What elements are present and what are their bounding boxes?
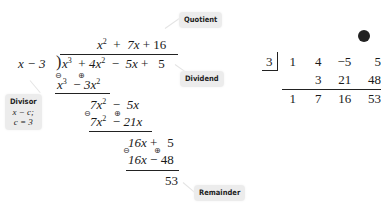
- term: 7x: [90, 97, 102, 112]
- quotient-term-2: 7x: [127, 37, 139, 52]
- coefficient: 5: [351, 53, 381, 71]
- result: 1: [282, 90, 296, 109]
- dividend-term-2: 4x: [89, 56, 101, 71]
- exponent: 2: [96, 77, 100, 86]
- quotient: x2 + 7x + 16: [97, 38, 166, 52]
- decorative-dot: [358, 30, 370, 42]
- quotient-label: Quotient: [179, 12, 222, 28]
- term: 3x: [84, 77, 96, 92]
- term: 48: [161, 152, 174, 167]
- divisor-label: Divisor x − c; c = 3: [5, 94, 42, 130]
- term: 5x: [127, 97, 139, 112]
- operator: +: [141, 56, 148, 71]
- coefficient: 1: [282, 53, 296, 71]
- term: 16x: [128, 152, 147, 167]
- operator: +: [143, 37, 150, 52]
- product: 48: [351, 71, 381, 90]
- dividend-label: Dividend: [180, 71, 224, 87]
- divisor-label-c: c = 3: [10, 117, 37, 127]
- division-bracket: ): [56, 55, 61, 69]
- term: 7x: [90, 114, 102, 129]
- products-row: 3 21 48: [282, 71, 381, 90]
- synthetic-divisor-box: [262, 52, 278, 71]
- divisor: x − 3: [18, 57, 46, 71]
- result: 7: [296, 90, 322, 109]
- quotient-term-3: 16: [153, 37, 166, 52]
- coefficient: −5: [322, 53, 352, 71]
- step-5: 16x − 48: [128, 153, 174, 167]
- operator: +: [113, 37, 120, 52]
- operator: +: [78, 56, 85, 71]
- subtraction-line: [89, 131, 152, 132]
- remainder-value: 53: [165, 174, 178, 188]
- divisor-label-title: Divisor: [10, 97, 37, 107]
- results-row: 1 7 16 53: [282, 90, 381, 109]
- subtraction-line: [126, 170, 179, 171]
- operator: −: [150, 152, 157, 167]
- exponent: 3: [63, 77, 67, 86]
- product: 3: [296, 71, 322, 90]
- operator: −: [73, 77, 80, 92]
- product: [282, 71, 296, 90]
- synthetic-table: 1 4 −5 5 3 21 48 1 7 16 53: [282, 53, 381, 108]
- term: 16x: [128, 135, 147, 150]
- subtraction-line: [55, 93, 110, 94]
- step-1: x3 − 3x2: [57, 78, 100, 92]
- divisor-callout-line: [30, 80, 41, 93]
- exponent: 2: [103, 37, 107, 46]
- dividend: x3 + 4x2 − 5x + 5: [62, 57, 165, 71]
- exponent: 3: [68, 56, 72, 65]
- step-4: 16x + 5: [128, 136, 174, 150]
- division-bar: [60, 54, 178, 55]
- remainder-label: Remainder: [194, 185, 245, 201]
- operator: −: [112, 56, 119, 71]
- exponent: 2: [102, 97, 106, 106]
- product: 21: [322, 71, 352, 90]
- coefficients-row: 1 4 −5 5: [282, 53, 381, 71]
- dividend-term-4: 5: [158, 56, 165, 71]
- coefficient: 4: [296, 53, 322, 71]
- result: 53: [351, 90, 381, 109]
- exponent: 2: [101, 56, 105, 65]
- term: 5: [167, 135, 174, 150]
- step-3: 7x2 − 21x: [90, 115, 142, 129]
- operator: −: [113, 114, 120, 129]
- dividend-term-3: 5x: [126, 56, 138, 71]
- divisor-label-form: x − c;: [10, 107, 37, 117]
- exponent: 2: [102, 114, 106, 123]
- term: 21x: [123, 114, 142, 129]
- result: 16: [322, 90, 352, 109]
